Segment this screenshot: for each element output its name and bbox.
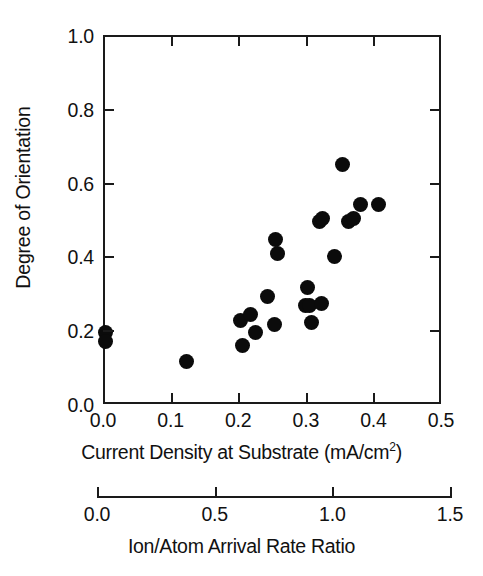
x-axis-tick-label: 0.3 [276,409,336,432]
y-axis-title: Degree of Orientation [12,48,35,348]
scatter-chart-figure: 0.00.20.40.60.81.00.00.10.20.30.40.50.00… [0,0,483,576]
y-axis-tick [103,330,114,332]
data-point [304,315,319,330]
secondary-axis-tick [332,487,334,498]
y-axis-tick-label: 1.0 [34,25,94,48]
secondary-axis-tick-label: 1.0 [297,503,367,526]
data-point [235,338,250,353]
data-point [371,197,386,212]
y-axis-tick [103,256,114,258]
secondary-axis-line [97,496,450,498]
x-axis-tick-top [373,35,375,46]
secondary-axis-tick-label: 0.0 [62,503,132,526]
x-axis-tick-label: 0.2 [208,409,268,432]
y-axis-tick-label: 0.4 [34,246,94,269]
data-point [327,249,342,264]
x-axis-tick [171,393,173,404]
y-axis-tick-right [430,109,441,111]
x-axis-tick-label: 0.0 [73,409,133,432]
data-point [267,317,282,332]
secondary-axis-tick-label: 1.5 [415,503,483,526]
data-point [179,354,194,369]
x-axis-tick-top [238,35,240,46]
y-axis-tick-right [430,183,441,185]
x-axis-tick-label: 0.1 [141,409,201,432]
plot-area [103,35,441,404]
secondary-axis-tick-label: 0.5 [180,503,250,526]
data-point [346,211,361,226]
data-point [300,280,315,295]
data-point [270,246,285,261]
x-axis-tick-top [306,35,308,46]
y-axis-tick-label: 0.6 [34,173,94,196]
y-axis-tick [103,109,114,111]
data-points-layer [105,37,439,402]
data-point [314,296,329,311]
x-axis-tick [306,393,308,404]
y-axis-tick-label: 0.8 [34,99,94,122]
y-axis-tick-right [430,256,441,258]
x-axis-tick-top [171,35,173,46]
y-axis-tick-label: 0.2 [34,320,94,343]
secondary-axis-tick [450,487,452,498]
x-axis-tick-label: 0.5 [411,409,471,432]
x-axis-title-tail: ) [396,441,402,463]
x-axis-tick [373,393,375,404]
x-axis-title: Current Density at Substrate (mA/cm2) [0,440,483,464]
data-point [260,289,275,304]
data-point [268,232,283,247]
data-point [335,157,350,172]
x-axis-tick-label: 0.4 [343,409,403,432]
secondary-axis-tick [97,487,99,498]
x-axis-title-main: Current Density at Substrate (mA/cm [81,441,389,463]
data-point [243,307,258,322]
data-point [353,197,368,212]
y-axis-tick [103,183,114,185]
x-axis-tick [238,393,240,404]
data-point [315,211,330,226]
data-point [98,334,113,349]
y-axis-tick-right [430,330,441,332]
secondary-axis-title: Ion/Atom Arrival Rate Ratio [0,535,483,558]
data-point [248,325,263,340]
secondary-axis-tick [215,487,217,498]
